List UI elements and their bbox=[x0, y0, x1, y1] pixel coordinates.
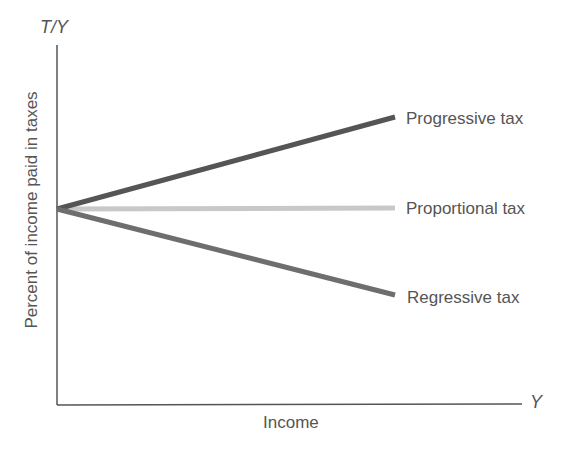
x-axis-symbol: Y bbox=[530, 392, 542, 413]
progressive-tax-label: Progressive tax bbox=[406, 109, 523, 129]
y-axis-symbol: T/Y bbox=[40, 17, 68, 38]
proportional-tax-label: Proportional tax bbox=[406, 199, 525, 219]
progressive-tax-line bbox=[57, 117, 395, 209]
x-axis bbox=[57, 404, 522, 405]
tax-chart bbox=[0, 0, 579, 450]
regressive-tax-label: Regressive tax bbox=[407, 288, 519, 308]
proportional-tax-line bbox=[57, 208, 395, 209]
y-axis-label: Percent of income paid in taxes bbox=[22, 91, 42, 328]
x-axis-label: Income bbox=[263, 413, 319, 433]
regressive-tax-line bbox=[57, 209, 395, 295]
